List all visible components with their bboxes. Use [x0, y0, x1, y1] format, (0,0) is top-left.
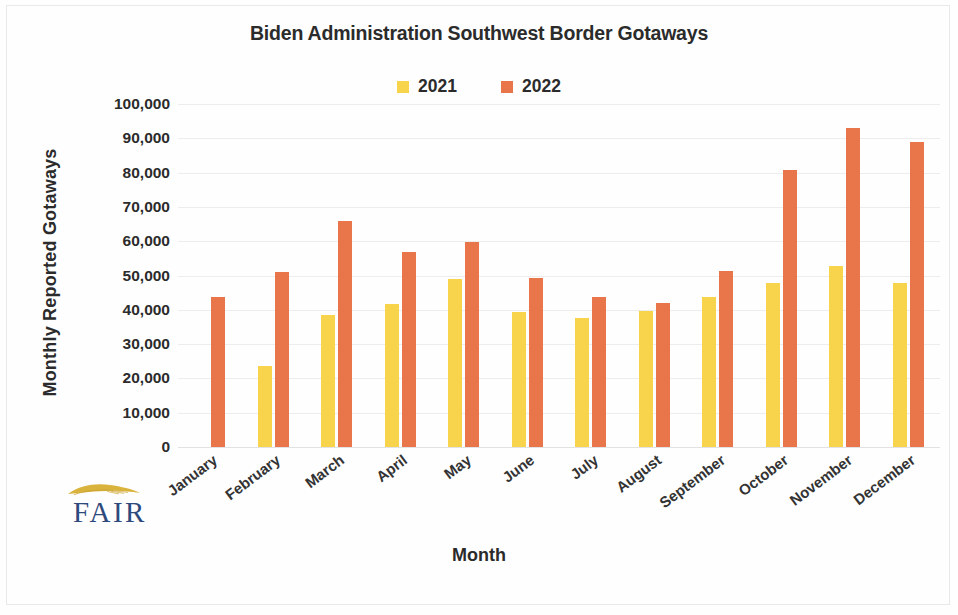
bar-2022-august [656, 303, 670, 447]
bar-2021-november [829, 266, 843, 447]
bar-2021-may [448, 279, 462, 447]
bar-2022-may [465, 242, 479, 447]
y-axis-title: Monthly Reported Gotaways [40, 93, 61, 453]
bar-2022-december [910, 142, 924, 447]
bar-group [432, 104, 496, 447]
bar-2022-april [402, 252, 416, 447]
bar-group [496, 104, 560, 447]
legend-label-2021: 2021 [418, 76, 457, 97]
fair-logo: FAIR [48, 483, 172, 537]
x-axis-tick-label: March [301, 451, 347, 491]
bar-2022-october [783, 170, 797, 447]
legend-entry-2021: 2021 [397, 76, 457, 97]
bar-2021-june [512, 312, 526, 447]
bar-2021-february [258, 366, 272, 447]
bar-group [686, 104, 750, 447]
x-axis-tick-slot: December [877, 447, 941, 537]
bar-group [623, 104, 687, 447]
bar-group [178, 104, 242, 447]
bar-2021-october [766, 283, 780, 447]
bar-group [369, 104, 433, 447]
chart-title: Biden Administration Southwest Border Go… [0, 22, 958, 45]
bar-group [559, 104, 623, 447]
x-axis-tick-label: April [373, 451, 411, 485]
bar-group [877, 104, 941, 447]
bar-2022-july [592, 297, 606, 447]
bar-2021-march [321, 315, 335, 447]
y-axis-tick-label: 20,000 [104, 369, 170, 387]
x-axis-tick-label: June [499, 451, 537, 486]
chart-screenshot: Biden Administration Southwest Border Go… [0, 0, 958, 615]
y-axis-tick-label: 70,000 [104, 198, 170, 216]
x-axis-tick-label: May [440, 451, 474, 482]
bar-2021-september [702, 297, 716, 447]
bar-group [242, 104, 306, 447]
chart-legend: 2021 2022 [0, 76, 958, 97]
bar-groups [178, 104, 940, 447]
y-axis-tick-label: 30,000 [104, 335, 170, 353]
bar-2021-december [893, 283, 907, 447]
x-axis-tick-slot: June [496, 447, 560, 537]
x-axis-tick-slot: March [305, 447, 369, 537]
bar-2022-june [529, 278, 543, 447]
fair-wordmark: FAIR [48, 496, 172, 529]
y-axis-tick-label: 10,000 [104, 404, 170, 422]
x-axis-tick-slot: May [432, 447, 496, 537]
y-axis-tick-label: 80,000 [104, 164, 170, 182]
legend-label-2022: 2022 [522, 76, 561, 97]
bar-group [305, 104, 369, 447]
x-axis-tick-label: July [567, 451, 601, 483]
bar-group [750, 104, 814, 447]
y-axis-tick-label: 60,000 [104, 232, 170, 250]
y-axis-tick-labels: 100,00090,00080,00070,00060,00050,00040,… [104, 104, 170, 460]
legend-swatch-2021 [397, 81, 409, 93]
y-axis-tick-label: 40,000 [104, 301, 170, 319]
bar-2022-november [846, 128, 860, 447]
bar-2022-march [338, 221, 352, 447]
x-axis-tick-slot: April [369, 447, 433, 537]
y-axis-tick-label: 50,000 [104, 267, 170, 285]
bar-2021-august [639, 311, 653, 448]
x-axis-title: Month [0, 545, 958, 566]
x-axis-tick-slot: July [559, 447, 623, 537]
x-axis-tick-labels: JanuaryFebruaryMarchAprilMayJuneJulyAugu… [178, 447, 940, 537]
bar-2021-april [385, 304, 399, 447]
bar-2022-january [211, 297, 225, 447]
plot-wrapper: 100,00090,00080,00070,00060,00050,00040,… [104, 104, 940, 460]
plot-area [178, 104, 940, 447]
bar-2022-february [275, 272, 289, 447]
legend-entry-2022: 2022 [501, 76, 561, 97]
y-axis-tick-label: 90,000 [104, 129, 170, 147]
bar-2022-september [719, 271, 733, 447]
y-axis-tick-label: 0 [104, 438, 170, 456]
legend-swatch-2022 [501, 81, 513, 93]
bar-group [813, 104, 877, 447]
y-axis-tick-label: 100,000 [104, 95, 170, 113]
x-axis-tick-slot: February [242, 447, 306, 537]
bar-2021-july [575, 318, 589, 447]
